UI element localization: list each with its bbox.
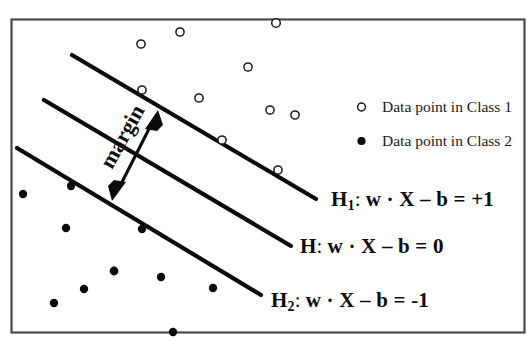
equation-h2: H2:w · X – b = -1: [271, 288, 429, 314]
equation-h-name: H: [300, 234, 317, 258]
equation-h-body: w · X – b = 0: [328, 234, 444, 258]
equation-h-colon: :: [317, 234, 323, 258]
data-point-open-support-vector: [138, 86, 146, 94]
svg-text:H1:w · X – b = +1: H1:w · X – b = +1: [331, 187, 494, 213]
svg-text:H:w · X – b = 0: H:w · X – b = 0: [300, 234, 444, 258]
svm-margin-figure: margin H1:w · X – b = +1 H:w · X – b = 0…: [0, 0, 532, 350]
equation-h: H:w · X – b = 0: [300, 234, 444, 258]
data-point-open: [266, 106, 274, 114]
legend-marker-open-circle-icon: [358, 103, 366, 111]
data-point-open: [244, 63, 252, 71]
equation-h2-colon: :: [295, 288, 301, 312]
equation-h1: H1:w · X – b = +1: [331, 187, 494, 213]
equation-h1-subscript: 1: [348, 198, 355, 213]
equation-h1-body: w · X – b = +1: [366, 187, 494, 211]
equation-h2-subscript: 2: [288, 299, 295, 314]
equation-h2-name: H: [271, 288, 288, 312]
data-point-open: [137, 40, 145, 48]
data-point-open: [176, 28, 184, 36]
equation-h1-colon: :: [355, 187, 361, 211]
data-point-filled: [50, 299, 58, 307]
equation-h2-body: w · X – b = -1: [306, 288, 429, 312]
legend-marker-filled-circle-icon: [357, 137, 365, 145]
legend-label-class2: Data point in Class 2: [382, 132, 512, 149]
data-point-filled: [19, 190, 27, 198]
data-point-filled: [110, 267, 119, 276]
data-point-open-support-vector: [218, 136, 226, 144]
data-point-filled: [80, 285, 88, 293]
data-point-filled: [157, 273, 165, 281]
data-point-open-support-vector: [274, 166, 282, 174]
data-point-filled: [209, 284, 217, 292]
figure-canvas: margin H1:w · X – b = +1 H:w · X – b = 0…: [0, 0, 532, 350]
data-point-filled: [62, 224, 70, 232]
data-point-filled-support-vector: [67, 182, 75, 190]
data-point-open: [272, 19, 281, 28]
legend-label-class1: Data point in Class 1: [382, 98, 512, 115]
data-point-filled-support-vector: [138, 225, 146, 233]
data-point-open: [291, 111, 299, 119]
equation-h1-name: H: [331, 187, 348, 211]
data-point-open: [195, 94, 203, 102]
data-point-filled: [169, 328, 177, 336]
svg-text:H2:w · X – b = -1: H2:w · X – b = -1: [271, 288, 429, 314]
